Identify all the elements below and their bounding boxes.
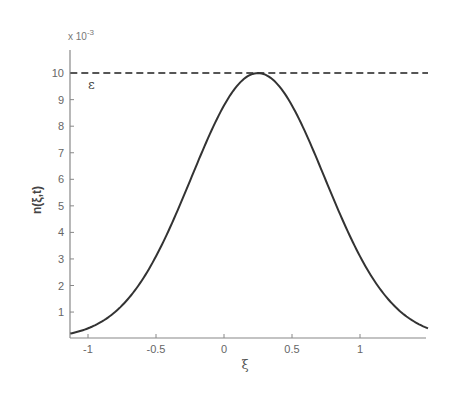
y-tick-label: 2: [58, 280, 64, 292]
y-tick-label: 6: [58, 173, 64, 185]
y-tick-label: 8: [58, 120, 64, 132]
y-tick-label: 10: [52, 67, 64, 79]
epsilon-label: ε: [88, 77, 95, 92]
x-tick-label: 1: [357, 343, 363, 355]
y-tick-label: 5: [58, 200, 64, 212]
y-axis-label: n(ξ,t): [30, 186, 44, 214]
y-tick-label: 9: [58, 94, 64, 106]
y-tick-label: 3: [58, 253, 64, 265]
x-ticks: -1-0.500.51: [83, 334, 363, 355]
x-axis-label: ξ: [241, 357, 248, 372]
x-tick-label: -0.5: [147, 343, 166, 355]
y-ticks: 12345678910: [52, 67, 74, 318]
y-tick-label: 7: [58, 147, 64, 159]
axes: [70, 50, 426, 338]
x-tick-label: 0: [221, 343, 227, 355]
y-tick-label: 1: [58, 306, 64, 318]
chart: 12345678910 -1-0.500.51 x 10-3 ε n(ξ,t) …: [0, 0, 452, 393]
x-tick-label: 0.5: [284, 343, 299, 355]
y-multiplier-label: x 10-3: [68, 28, 95, 42]
y-tick-label: 4: [58, 226, 64, 238]
x-tick-label: -1: [83, 343, 93, 355]
density-curve: [70, 73, 428, 333]
